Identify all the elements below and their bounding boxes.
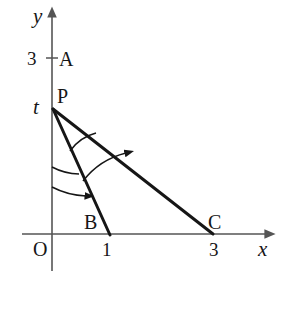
parameter-label-t: t bbox=[33, 95, 40, 119]
point-label-C: C bbox=[208, 211, 221, 233]
geometry-canvas: y x 3 A P t B C O 1 3 bbox=[0, 0, 286, 313]
arc-angle-APB-inner bbox=[52, 167, 79, 174]
segment-PB bbox=[53, 109, 110, 235]
x-axis-label: x bbox=[257, 237, 268, 261]
y-tick-label-3: 3 bbox=[27, 48, 37, 69]
segment-PC bbox=[53, 109, 213, 234]
segment-group bbox=[53, 109, 213, 235]
arc-angle-BPC-outer bbox=[83, 153, 126, 181]
geometry-figure: y x 3 A P t B C O 1 3 bbox=[0, 0, 286, 313]
point-label-A: A bbox=[59, 48, 74, 70]
y-axis-label: y bbox=[31, 4, 43, 28]
origin-label-O: O bbox=[33, 238, 47, 260]
arc-angle-APB-outer bbox=[52, 187, 86, 196]
arc-angle-BPC-inner bbox=[70, 133, 96, 151]
x-tick-label-1: 1 bbox=[102, 239, 112, 260]
point-label-P: P bbox=[57, 85, 68, 107]
point-label-B: B bbox=[84, 211, 97, 233]
x-tick-label-3: 3 bbox=[209, 239, 219, 260]
